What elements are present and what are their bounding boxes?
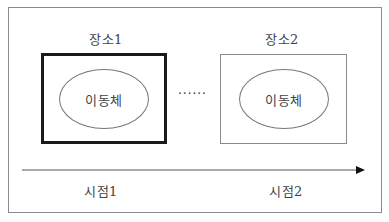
time-axis-arrow <box>0 0 389 222</box>
arrowhead-icon <box>356 166 365 174</box>
time-point-2-label: 시점2 <box>269 185 303 199</box>
time-point-1-label: 시점1 <box>84 185 118 199</box>
